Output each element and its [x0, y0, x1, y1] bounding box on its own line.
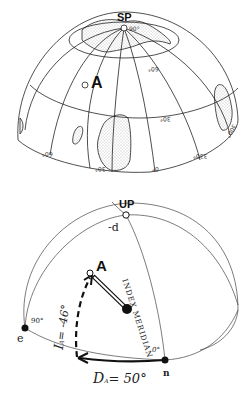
up-pole-marker — [123, 212, 129, 218]
latitude-30 — [30, 85, 238, 118]
landmass-africa — [214, 85, 232, 131]
north-label: n — [163, 369, 170, 378]
north-point — [162, 357, 169, 364]
top-globe — [18, 12, 238, 172]
declination-label: DA= 50° — [93, 368, 147, 387]
longitude-label-60: 60° — [42, 151, 53, 157]
south-pole-marker — [121, 25, 127, 31]
up-pole-label: UP — [119, 199, 134, 210]
longitude-label-330: 330° — [193, 153, 207, 159]
longitude-label-0: 0° — [152, 166, 159, 172]
latitude-label-60: 60° — [148, 66, 159, 72]
meridian-5 — [124, 28, 200, 160]
declination-symbol: D — [93, 370, 104, 386]
site-a-vector-label: A — [96, 258, 107, 273]
site-a-vector-tip — [87, 270, 93, 276]
site-a-label: A — [91, 75, 103, 91]
landmass-left-edge — [20, 118, 23, 134]
longitude-label-30: 30° — [95, 166, 106, 172]
east-angle-label: 90° — [31, 318, 43, 325]
south-pole-label: SP — [117, 12, 132, 23]
site-a-marker — [82, 82, 88, 88]
north-angle-label: 0° — [152, 347, 160, 354]
landmass-island — [73, 126, 83, 144]
pole-value-label: 90° — [129, 26, 140, 32]
east-point — [22, 325, 29, 332]
inclination-arrow — [76, 278, 90, 357]
up-pole-sublabel: -d — [108, 222, 119, 233]
latitude-label-30: 30° — [160, 116, 171, 122]
declination-value: = 50° — [109, 371, 147, 386]
east-label: e — [17, 333, 24, 344]
